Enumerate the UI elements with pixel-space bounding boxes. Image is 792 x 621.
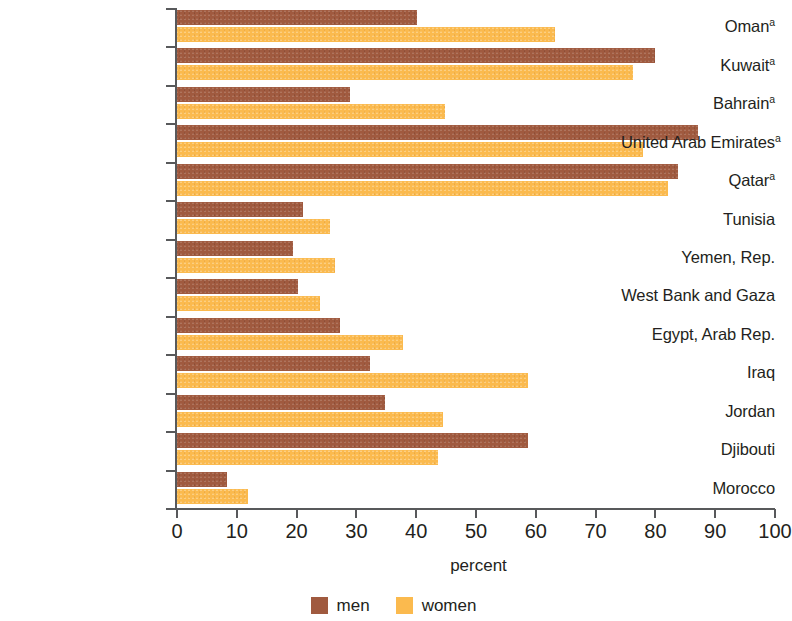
y-axis-tick [166,354,176,356]
category-label-west-bank-and-gaza: West Bank and Gaza [621,286,787,305]
category-label-morocco: Morocco [621,479,787,498]
bar-women [176,258,335,273]
bar-women [176,373,528,388]
category-label-kuwait: Kuwaita [621,56,787,75]
x-axis-tick-label: 60 [525,519,547,543]
legend-label-men: men [337,597,370,614]
y-axis-tick [166,431,176,433]
x-axis-tick-label: 40 [405,519,427,543]
bar-men [176,433,528,448]
footnote-marker: a [769,16,775,28]
bar-women [176,181,668,196]
bar-women [176,219,330,234]
y-axis-tick [166,508,176,510]
legend-item-women: women [396,597,477,614]
bar-men [176,125,698,140]
footnote-marker: a [775,131,781,143]
bar-women [176,296,320,311]
bar-women [176,142,643,157]
bar-women [176,412,443,427]
x-axis-tick [535,509,537,518]
x-axis-tick [595,509,597,518]
bar-men [176,356,370,371]
y-axis-tick [166,162,176,164]
x-axis-tick-label: 10 [226,519,248,543]
category-label-bahrain: Bahraina [621,94,787,113]
bar-women [176,27,555,42]
category-label-yemen-rep: Yemen, Rep. [621,248,787,267]
bar-men [176,87,350,102]
y-axis-tick [166,123,176,125]
category-label-qatar: Qatara [621,171,787,190]
legend-swatch-men-icon [311,597,328,614]
chart-legend: men women [0,597,787,614]
footnote-marker: a [769,93,775,105]
legend-swatch-women-icon [396,597,413,614]
x-axis-tick-label: 20 [285,519,307,543]
x-axis-title: percent [0,556,787,576]
bar-men [176,472,227,487]
x-axis-tick-label: 50 [465,519,487,543]
x-axis-tick [355,509,357,518]
category-label-tunisia: Tunisia [621,210,787,229]
y-axis-tick [166,277,176,279]
y-axis-tick [166,200,176,202]
bar-men [176,279,298,294]
category-label-egypt-arab-rep: Egypt, Arab Rep. [621,325,787,344]
bar-men [176,241,293,256]
bar-women [176,335,403,350]
legend-item-men: men [311,597,370,614]
x-axis-tick [176,509,178,518]
bar-women [176,104,445,119]
bar-men [176,10,417,25]
bar-women [176,489,248,504]
bar-men [176,164,678,179]
y-axis-line [175,8,177,509]
category-label-united-arab-emirates: United Arab Emiratesa [621,133,787,152]
x-axis-tick [236,509,238,518]
x-axis-tick [475,509,477,518]
footnote-marker: a [769,170,775,182]
x-axis-tick-label: 0 [171,519,182,543]
category-label-djibouti: Djibouti [621,440,787,459]
y-axis-tick [166,239,176,241]
y-axis-tick [166,46,176,48]
y-axis-tick [166,316,176,318]
x-axis-tick-label: 80 [644,519,666,543]
x-axis-title-text: percent [450,556,507,575]
category-label-jordan: Jordan [621,402,787,421]
bar-men [176,48,655,63]
y-axis-tick [166,393,176,395]
bar-women [176,65,633,80]
bar-men [176,202,303,217]
y-axis-tick [166,85,176,87]
category-label-oman: Omana [621,17,787,36]
x-axis-tick [714,509,716,518]
bar-women [176,450,438,465]
footnote-marker: a [769,54,775,66]
x-axis-tick-label: 70 [584,519,606,543]
bar-men [176,395,385,410]
legend-label-women: women [422,597,477,614]
x-axis-tick-label: 100 [758,519,791,543]
x-axis-tick [296,509,298,518]
x-axis-tick-label: 30 [345,519,367,543]
x-axis-tick [654,509,656,518]
bar-men [176,318,340,333]
y-axis-tick [166,470,176,472]
category-label-iraq: Iraq [621,363,787,382]
x-axis-tick [415,509,417,518]
x-axis-tick [774,509,776,518]
y-axis-tick [166,8,176,10]
x-axis-tick-label: 90 [704,519,726,543]
